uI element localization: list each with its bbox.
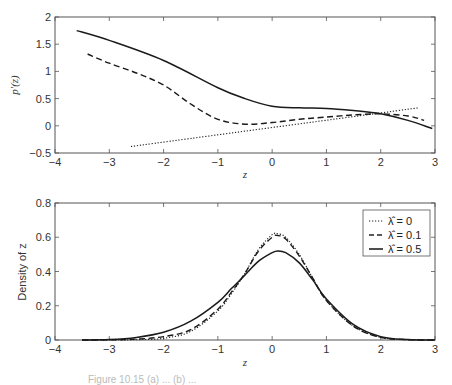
x-tick-label: 0 xyxy=(269,156,275,168)
x-tick-label: −3 xyxy=(103,156,116,168)
x-tick-label: −2 xyxy=(157,343,170,355)
x-tick-label: −1 xyxy=(212,343,225,355)
y-tick-label: 0.8 xyxy=(36,197,51,209)
bottom-x-axis-label: z xyxy=(242,356,248,368)
x-tick-label: 1 xyxy=(323,343,329,355)
x-tick-label: 3 xyxy=(432,343,438,355)
top-series xyxy=(77,31,433,147)
legend-label-2: λ̂ = 0.5 xyxy=(388,243,421,255)
y-tick-label: −0.5 xyxy=(29,147,51,159)
legend-label-0: λ̂ = 0 xyxy=(388,215,412,227)
x-tick-label: 2 xyxy=(378,156,384,168)
y-tick-label: 1 xyxy=(45,65,51,77)
y-tick-label: 0.4 xyxy=(36,266,51,278)
x-tick-label: 0 xyxy=(269,343,275,355)
legend: λ̂ = 0 λ̂ = 0.1 λ̂ = 0.5 xyxy=(363,210,430,256)
top-plot: −4−3−2−10123−0.500.511.52 z p′(z) xyxy=(8,11,438,180)
top-x-axis-label: z xyxy=(242,168,248,180)
y-tick-label: 0 xyxy=(45,120,51,132)
series-solid-line xyxy=(82,251,435,340)
series-solid-line xyxy=(77,31,433,129)
x-tick-label: 3 xyxy=(432,156,438,168)
top-plot-frame xyxy=(55,17,435,153)
legend-label-1: λ̂ = 0.1 xyxy=(388,229,421,241)
figure-caption: Figure 10.15 (a) ... (b) ... xyxy=(88,374,196,385)
bottom-y-axis-label: Density of z xyxy=(16,243,28,300)
y-tick-label: 0 xyxy=(45,334,51,346)
y-tick-label: 2 xyxy=(45,11,51,23)
series-dashed-line xyxy=(88,54,425,124)
y-tick-label: 1.5 xyxy=(36,38,51,50)
x-tick-label: −1 xyxy=(212,156,225,168)
x-tick-label: 2 xyxy=(378,343,384,355)
y-tick-label: 0.5 xyxy=(36,93,51,105)
x-tick-label: −3 xyxy=(103,343,116,355)
top-y-axis-label: p′(z) xyxy=(8,75,21,96)
y-tick-label: 0.6 xyxy=(36,231,51,243)
x-tick-label: −2 xyxy=(157,156,170,168)
bottom-plot: −4−3−2−1012300.20.40.60.8 z Density of z… xyxy=(16,197,438,368)
y-tick-label: 0.2 xyxy=(36,300,51,312)
x-tick-label: 1 xyxy=(323,156,329,168)
